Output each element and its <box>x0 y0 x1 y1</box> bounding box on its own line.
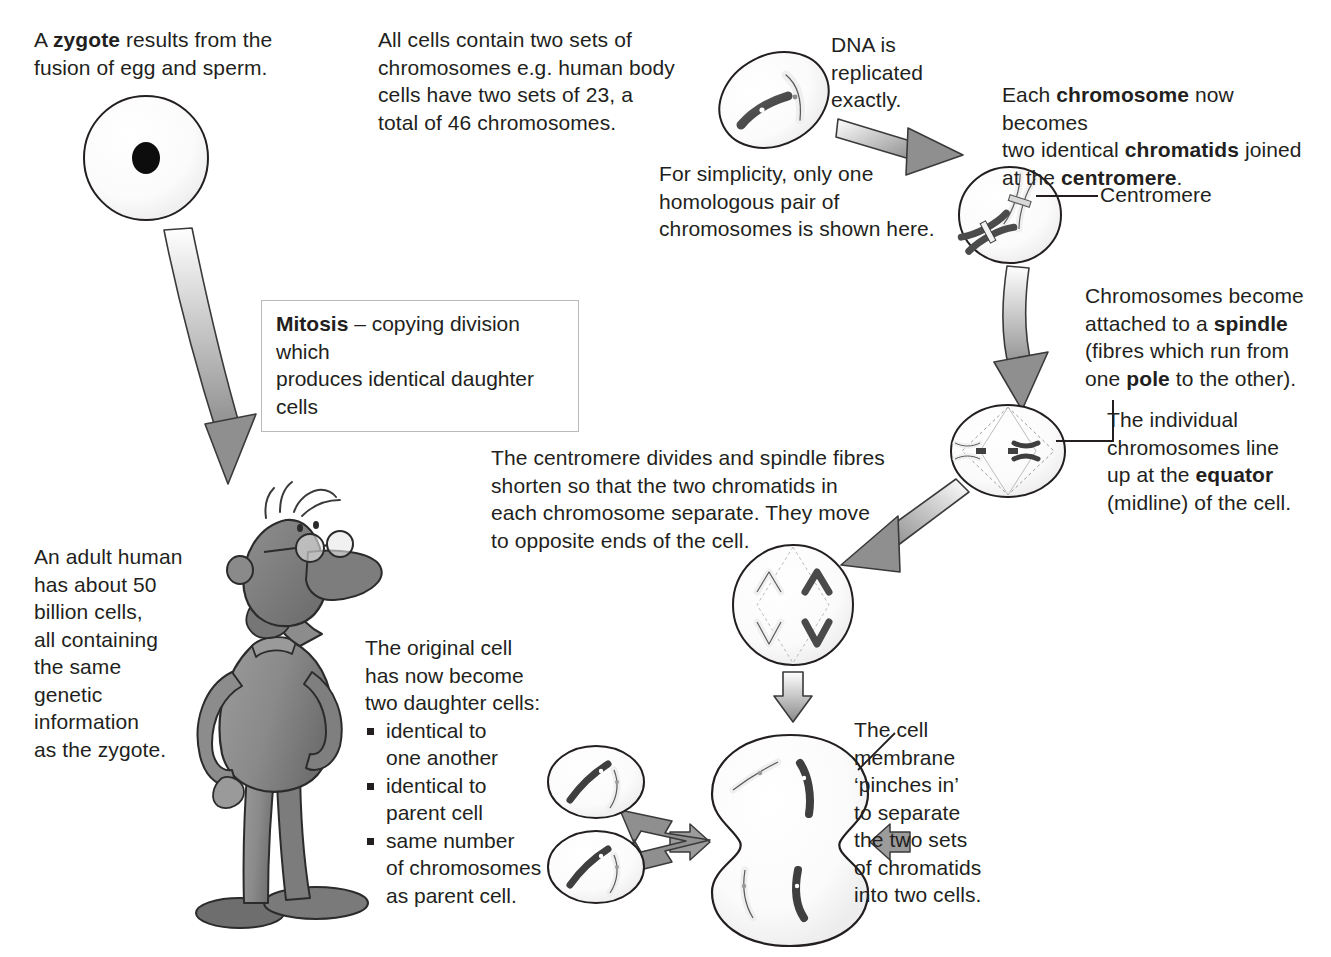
daughter-cells-summary: The original cell has now becometwo daug… <box>365 634 565 909</box>
daughter-cells-intro: The original cell has now becometwo daug… <box>365 634 565 717</box>
centromere-divides-label: The centromere divides and spindle fibre… <box>491 444 991 554</box>
arrow-chromatid-to-metaphase <box>994 266 1048 410</box>
simplicity-label: For simplicity, only onehomologous pair … <box>659 160 949 243</box>
arrow-anaphase-to-telophase <box>774 672 812 722</box>
spindle-label: Chromosomes becomeattached to a spindle(… <box>1085 282 1325 392</box>
mitosis-definition-box: Mitosis – copying division whichproduces… <box>261 300 579 432</box>
arrow-to-daughter-cells <box>620 810 710 875</box>
centromere-label: Centromere <box>1100 181 1300 209</box>
equator-label: The individualchromosomes lineup at the … <box>1107 406 1327 516</box>
anaphase-cell <box>733 545 853 665</box>
list-item: identical toparent cell <box>365 772 565 827</box>
list-item: same numberof chromosomesas parent cell. <box>365 827 565 910</box>
arrow-zygote-to-human <box>164 228 256 484</box>
cell-membrane-label: The cellmembrane‘pinches in’to separatet… <box>854 716 1054 909</box>
all-cells-label: All cells contain two sets ofchromosomes… <box>378 26 708 136</box>
adult-human-label: An adult humanhas about 50billion cells,… <box>34 543 204 763</box>
daughter-cells-list: identical toone another identical topare… <box>365 717 565 910</box>
list-item: identical toone another <box>365 717 565 772</box>
chromatids-label: Each chromosome now becomestwo identical… <box>1002 81 1322 191</box>
interphase-cell <box>703 34 846 167</box>
zygote-cell <box>84 96 208 220</box>
dna-replicated-label: DNA isreplicatedexactly. <box>831 31 961 114</box>
zygote-label: A zygote results from thefusion of egg a… <box>34 26 334 81</box>
mitosis-diagram: A zygote results from thefusion of egg a… <box>0 0 1331 957</box>
cartoon-man <box>196 482 382 928</box>
